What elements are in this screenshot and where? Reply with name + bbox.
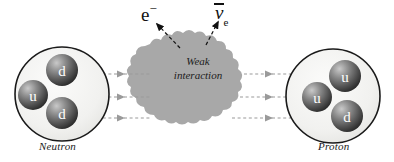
proton-quark-u-left: u [302,82,332,112]
neutron-quark-d-top: d [46,54,78,86]
neutron-quark-d-bottom: d [46,97,78,129]
quark-letter: d [343,109,351,125]
proton-circle [286,49,380,143]
quark-letter: u [29,88,37,104]
quark-letter: d [58,63,66,79]
neutron-group: d u d [15,47,109,141]
proton-quark-d-bottom: d [331,100,363,132]
electron-charge: − [149,1,156,16]
electron-label: e− [141,3,157,24]
weak-interaction-label: Weak interaction [153,55,243,83]
proton-group: u u d [286,49,380,143]
beta-decay-diagram: d u d u u d [0,0,394,162]
proton-quark-u-top: u [329,60,361,92]
quark-letter: u [341,69,349,85]
antineutrino-subscript: e [223,16,228,28]
quark-letter: u [313,90,321,106]
weak-interaction-line2: interaction [153,69,243,83]
proton-label: Proton [318,140,349,152]
neutron-quark-u-left: u [18,80,48,110]
neutron-label: Neutron [39,140,76,152]
weak-interaction-line1: Weak [153,55,243,69]
antineutrino-label: νe [215,2,228,26]
quark-letter: d [58,106,66,122]
